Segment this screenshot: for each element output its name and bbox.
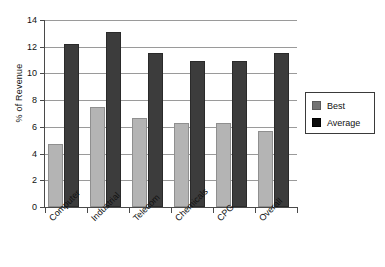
bar-average bbox=[232, 61, 247, 207]
bar-best bbox=[174, 123, 189, 207]
y-axis-label: 14 bbox=[27, 15, 37, 25]
bar-group bbox=[171, 20, 213, 207]
bar-best bbox=[258, 131, 273, 207]
bar-average bbox=[64, 44, 79, 207]
y-axis-title: % of Revenue bbox=[14, 28, 24, 158]
y-axis-label: 6 bbox=[32, 122, 37, 132]
x-axis-tick bbox=[171, 207, 172, 213]
legend-item-best: Best bbox=[312, 97, 374, 114]
legend-label-average: Average bbox=[327, 118, 360, 128]
y-axis-label: 2 bbox=[32, 175, 37, 185]
bar-chart: % of Revenue 02468101214 ComputerIndustr… bbox=[0, 0, 385, 267]
legend-label-best: Best bbox=[327, 101, 345, 111]
y-axis-label: 12 bbox=[27, 42, 37, 52]
x-axis-tick bbox=[129, 207, 130, 213]
x-axis-tick bbox=[297, 207, 298, 213]
legend-item-average: Average bbox=[312, 114, 374, 131]
bar-best bbox=[48, 144, 63, 207]
legend-swatch-best-icon bbox=[312, 101, 321, 110]
bar-group bbox=[45, 20, 87, 207]
y-axis-label: 4 bbox=[32, 149, 37, 159]
plot-area: 02468101214 bbox=[45, 20, 297, 207]
bar-average bbox=[148, 53, 163, 207]
legend-swatch-average-icon bbox=[312, 118, 321, 127]
bars-layer bbox=[45, 20, 297, 207]
x-axis-tick bbox=[45, 207, 46, 213]
bar-group bbox=[213, 20, 255, 207]
bar-best bbox=[216, 123, 231, 207]
bar-group bbox=[255, 20, 297, 207]
bar-best bbox=[90, 107, 105, 207]
y-axis-label: 10 bbox=[27, 68, 37, 78]
bar-average bbox=[106, 32, 121, 207]
bar-average bbox=[274, 53, 289, 207]
bar-group bbox=[87, 20, 129, 207]
chart-legend: Best Average bbox=[305, 92, 375, 134]
x-axis-tick bbox=[255, 207, 256, 213]
y-axis-label: 8 bbox=[32, 95, 37, 105]
bar-best bbox=[132, 118, 147, 207]
bar-group bbox=[129, 20, 171, 207]
x-axis-tick bbox=[213, 207, 214, 213]
x-axis-tick bbox=[87, 207, 88, 213]
bar-average bbox=[190, 61, 205, 207]
y-axis-label: 0 bbox=[32, 202, 37, 212]
